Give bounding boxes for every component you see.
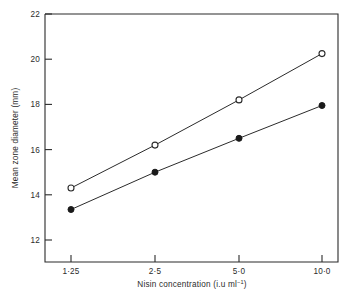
series-filled-circle-line xyxy=(71,106,322,210)
x-axis-title-tail: ) xyxy=(244,280,247,289)
plot-frame xyxy=(45,14,338,262)
chart-canvas: 22 20 18 16 14 12 1·25 2·5 5·0 10·0 Mean… xyxy=(0,0,353,306)
data-point-filled-2 xyxy=(152,169,158,175)
x-axis-title-main: Nisin concentration (i.u ml xyxy=(137,280,237,289)
y-tick-label-22: 22 xyxy=(30,10,40,19)
data-point-filled-1 xyxy=(68,207,74,213)
series-open-circle xyxy=(68,51,325,191)
data-point-open-4 xyxy=(319,51,325,57)
x-tick-label-2-5: 2·5 xyxy=(149,267,162,276)
data-point-open-2 xyxy=(152,142,158,148)
x-tick-label-5-0: 5·0 xyxy=(233,267,246,276)
y-tick-label-20: 20 xyxy=(30,55,40,64)
x-axis-title-superscript: −1 xyxy=(237,279,244,285)
x-tick-labels: 1·25 2·5 5·0 10·0 xyxy=(62,267,330,276)
data-point-filled-3 xyxy=(236,135,242,141)
data-point-open-1 xyxy=(68,185,74,191)
frame-box xyxy=(45,14,338,262)
y-axis-title: Mean zone diameter (mm) xyxy=(11,88,20,189)
y-tick-label-14: 14 xyxy=(30,191,40,200)
y-tick-label-16: 16 xyxy=(30,146,40,155)
x-tick-label-1-25: 1·25 xyxy=(62,267,79,276)
x-tick-label-10-0: 10·0 xyxy=(313,267,330,276)
figure-container: 22 20 18 16 14 12 1·25 2·5 5·0 10·0 Mean… xyxy=(0,0,353,306)
y-axis-ticks xyxy=(45,14,52,240)
series-filled-circle xyxy=(68,103,325,213)
x-axis-title: Nisin concentration (i.u ml−1) xyxy=(137,279,246,289)
x-axis-ticks xyxy=(71,255,322,262)
data-point-open-3 xyxy=(236,97,242,103)
y-tick-labels: 22 20 18 16 14 12 xyxy=(30,10,40,245)
data-point-filled-4 xyxy=(319,103,325,109)
y-tick-label-12: 12 xyxy=(30,236,40,245)
caption-strip xyxy=(0,292,353,306)
y-tick-label-18: 18 xyxy=(30,100,40,109)
